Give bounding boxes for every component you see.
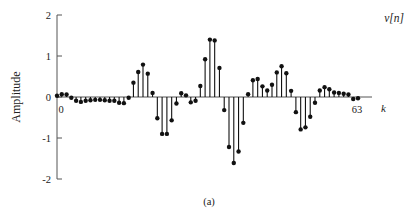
stem-marker xyxy=(83,98,87,102)
stem-marker xyxy=(64,92,68,96)
stem-marker xyxy=(294,110,298,114)
stem-marker xyxy=(122,101,126,105)
stem-marker xyxy=(298,127,302,131)
stem-marker xyxy=(327,87,331,91)
stem-marker xyxy=(346,92,350,96)
stem-marker xyxy=(189,100,193,104)
stem-marker xyxy=(179,91,183,95)
stem-marker xyxy=(74,98,78,102)
stem-marker xyxy=(260,84,264,88)
stem-marker xyxy=(284,71,288,75)
y-tick-label-2: 2 xyxy=(46,10,51,21)
stem-marker xyxy=(332,90,336,94)
stem-marker xyxy=(227,145,231,149)
stem-marker xyxy=(241,121,245,125)
stem-marker xyxy=(79,100,83,104)
stem-marker xyxy=(136,70,140,74)
stem-marker xyxy=(341,92,345,96)
stem-marker xyxy=(251,78,255,82)
stem-marker xyxy=(208,37,212,41)
stem-marker xyxy=(146,71,150,75)
stem-marker xyxy=(275,70,279,74)
stem-marker xyxy=(112,98,116,102)
stem-marker xyxy=(184,93,188,97)
stem-marker xyxy=(174,101,178,105)
stem-marker xyxy=(303,125,307,129)
y-tick-label-1: 1 xyxy=(46,51,51,62)
x-start-label: 0 xyxy=(58,104,63,115)
stem-marker xyxy=(198,84,202,88)
stem-marker xyxy=(337,91,341,95)
stem-marker xyxy=(160,132,164,136)
figure-panel: 2 1 0 -1 -2 Amplitude 0 63 k v[n] (a) xyxy=(0,0,418,218)
stem-marker xyxy=(88,98,92,102)
stem-marker xyxy=(270,83,274,87)
stem-marker xyxy=(313,101,317,105)
stem-marker xyxy=(169,118,173,122)
series-label: v[n] xyxy=(384,12,404,24)
y-tick-label-neg1: -1 xyxy=(42,133,51,144)
stem-marker xyxy=(318,88,322,92)
x-axis-name: k xyxy=(381,102,387,114)
stem-marker xyxy=(246,92,250,96)
stem-marker xyxy=(55,94,59,98)
y-tick-label-0: 0 xyxy=(46,92,51,103)
stem-marker xyxy=(265,88,269,92)
x-end-label: 63 xyxy=(352,104,363,115)
stem-marker xyxy=(117,101,121,105)
stem-marker xyxy=(165,132,169,136)
stem-plot-svg: 2 1 0 -1 -2 Amplitude 0 63 k v[n] (a) xyxy=(0,0,418,218)
stem-marker xyxy=(351,97,355,101)
stem-marker xyxy=(289,89,293,93)
y-tick-label-neg2: -2 xyxy=(42,174,51,185)
stem-series xyxy=(55,37,360,165)
stem-marker xyxy=(60,92,64,96)
stem-marker xyxy=(150,91,154,95)
stem-marker xyxy=(69,96,73,100)
stem-marker xyxy=(217,66,221,70)
figure-caption: (a) xyxy=(203,196,215,208)
stem-marker xyxy=(222,108,226,112)
stem-marker xyxy=(155,116,159,120)
stem-marker xyxy=(93,98,97,102)
stem-marker xyxy=(212,38,216,42)
stem-marker xyxy=(131,80,135,84)
stem-marker xyxy=(308,114,312,118)
stem-marker xyxy=(126,96,130,100)
stem-marker xyxy=(203,57,207,61)
stem-marker xyxy=(98,98,102,102)
stem-marker xyxy=(232,161,236,165)
stem-marker xyxy=(103,98,107,102)
stem-marker xyxy=(255,77,259,81)
stem-marker xyxy=(236,149,240,153)
stem-marker xyxy=(356,96,360,100)
stem-marker xyxy=(193,98,197,102)
stem-marker xyxy=(107,98,111,102)
y-axis-title: Amplitude xyxy=(9,71,23,122)
stem-marker xyxy=(279,64,283,68)
stem-marker xyxy=(141,62,145,66)
stem-marker xyxy=(322,85,326,89)
